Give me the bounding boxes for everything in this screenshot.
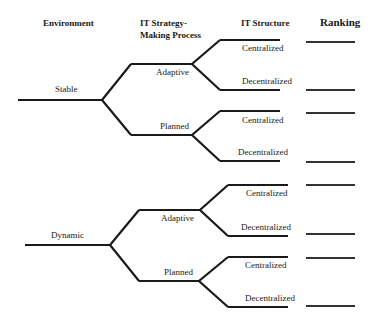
structure-label: Centralized bbox=[242, 115, 283, 126]
ranking-blank[interactable] bbox=[306, 233, 355, 235]
structure-label: Centralized bbox=[242, 43, 283, 54]
strategy-label-stable-planned: Planned bbox=[160, 121, 189, 132]
env-label-dynamic: Dynamic bbox=[51, 230, 84, 241]
structure-label: Decentralized bbox=[245, 293, 295, 304]
strategy-label-dynamic-adaptive: Adaptive bbox=[161, 213, 194, 224]
header-structure: IT Structure bbox=[241, 17, 289, 29]
strategy-label-dynamic-planned: Planned bbox=[164, 267, 193, 278]
structure-label: Decentralized bbox=[242, 76, 292, 87]
header-environment: Environment bbox=[43, 17, 94, 29]
ranking-blank[interactable] bbox=[306, 305, 355, 307]
ranking-blank[interactable] bbox=[306, 257, 355, 259]
structure-label: Decentralized bbox=[238, 147, 288, 158]
structure-label: Decentralized bbox=[241, 222, 291, 233]
env-label-stable: Stable bbox=[55, 84, 78, 95]
ranking-blank[interactable] bbox=[306, 184, 355, 186]
structure-label: Centralized bbox=[246, 188, 287, 199]
structure-label: Centralized bbox=[245, 260, 286, 271]
header-ranking: Ranking bbox=[320, 16, 360, 28]
strategy-label-stable-adaptive: Adaptive bbox=[156, 67, 189, 78]
ranking-blank[interactable] bbox=[306, 161, 355, 163]
ranking-blank[interactable] bbox=[306, 89, 355, 91]
ranking-blank[interactable] bbox=[306, 112, 355, 114]
header-strategy-line2: Making Process bbox=[140, 29, 201, 41]
header-strategy-line1: IT Strategy- bbox=[140, 17, 187, 29]
ranking-blank[interactable] bbox=[306, 41, 355, 43]
